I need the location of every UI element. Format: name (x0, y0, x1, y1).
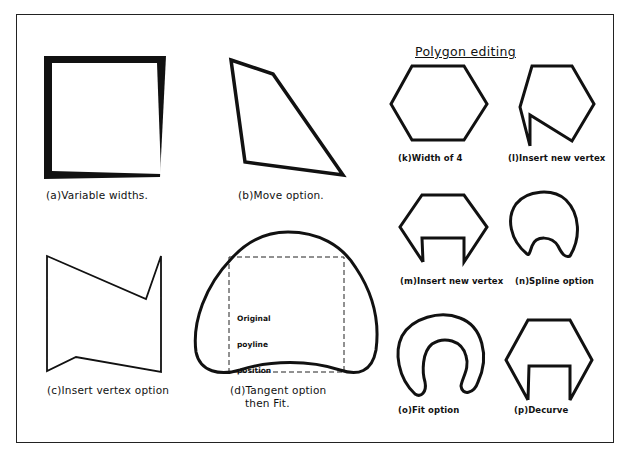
note-line-2: poyline (237, 341, 271, 350)
figure-a-variable-width-square (44, 56, 166, 179)
note-line-3: position (237, 367, 271, 376)
figure-l-polygon (520, 66, 594, 146)
diagram-canvas: Polygon editing (a)Variable widths. (b)M… (0, 0, 628, 460)
original-position-note: Original poyline position (237, 298, 271, 393)
figure-n-spline (511, 192, 578, 256)
caption-a: (a)Variable widths. (46, 189, 148, 201)
caption-o: (o)Fit option (398, 406, 459, 416)
caption-l: (l)Insert new vertex (508, 154, 605, 164)
caption-c: (c)Insert vertex option (47, 384, 169, 396)
caption-d-line2: then Fit. (245, 397, 290, 409)
caption-p: (p)Decurve (514, 406, 568, 416)
figure-o-fit (398, 315, 484, 395)
caption-b: (b)Move option. (238, 189, 324, 201)
caption-n: (n)Spline option (515, 277, 594, 287)
figure-p-decurve (506, 320, 592, 400)
section-title: Polygon editing (415, 44, 516, 59)
figure-k-hexagon (391, 66, 487, 140)
caption-m: (m)Insert new vertex (400, 277, 503, 287)
figure-b-move-polygon (231, 60, 343, 175)
figure-d-tangent-fit (195, 232, 377, 373)
figure-m-polygon (400, 195, 487, 262)
caption-k: (k)Width of 4 (398, 154, 463, 164)
note-line-1: Original (237, 315, 271, 324)
figure-c-insert-vertex-polygon (47, 256, 161, 372)
